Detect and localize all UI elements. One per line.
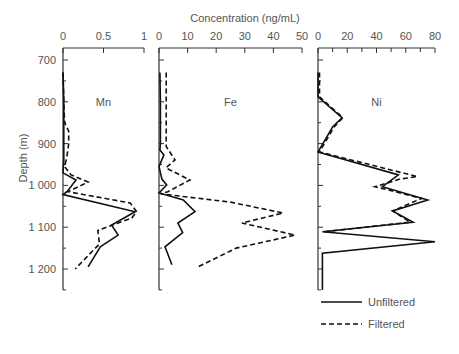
x-tick-label: 30 — [239, 30, 251, 42]
legend-filtered-label: Filtered — [368, 318, 405, 330]
x-tick-label: 40 — [370, 30, 382, 42]
x-tick-label: 0 — [156, 30, 162, 42]
x-tick-label: 80 — [429, 30, 441, 42]
y-tick-label: 800 — [38, 96, 56, 108]
legend: Unfiltered Filtered — [321, 296, 415, 330]
panel-ni: 020406080Ni — [315, 30, 441, 290]
y-axis-ticks: 7008009001 0001 1001 200 — [28, 54, 56, 275]
x-tick-label: 0 — [315, 30, 321, 42]
x-tick-label: 20 — [210, 30, 222, 42]
panel-label: Ni — [371, 96, 381, 108]
panel-label: Fe — [224, 96, 237, 108]
chart-title: Concentration (ng/mL) — [190, 12, 299, 24]
y-axis-label: Depth (m) — [17, 134, 29, 183]
panel-fe: 01020304050Fe — [156, 30, 308, 290]
y-tick-label: 900 — [38, 138, 56, 150]
x-tick-label: 60 — [400, 30, 412, 42]
x-tick-label: 0.5 — [96, 30, 111, 42]
panel-label: Mn — [96, 96, 111, 108]
concentration-depth-chart: Concentration (ng/mL) Depth (m) 70080090… — [0, 0, 459, 354]
series-unfiltered — [159, 73, 195, 265]
y-tick-label: 1 000 — [28, 179, 56, 191]
y-tick-label: 700 — [38, 54, 56, 66]
x-tick-label: 20 — [341, 30, 353, 42]
y-tick-label: 1 200 — [28, 263, 56, 275]
panel-mn: 00.51Mn — [60, 30, 147, 290]
chart-panels: 00.51Mn01020304050Fe020406080Ni — [60, 30, 441, 290]
x-tick-label: 1 — [141, 30, 147, 42]
y-tick-label: 1 100 — [28, 221, 56, 233]
legend-unfiltered-label: Unfiltered — [368, 296, 415, 308]
x-tick-label: 40 — [267, 30, 279, 42]
x-tick-label: 0 — [60, 30, 66, 42]
x-tick-label: 10 — [181, 30, 193, 42]
x-tick-label: 50 — [296, 30, 308, 42]
